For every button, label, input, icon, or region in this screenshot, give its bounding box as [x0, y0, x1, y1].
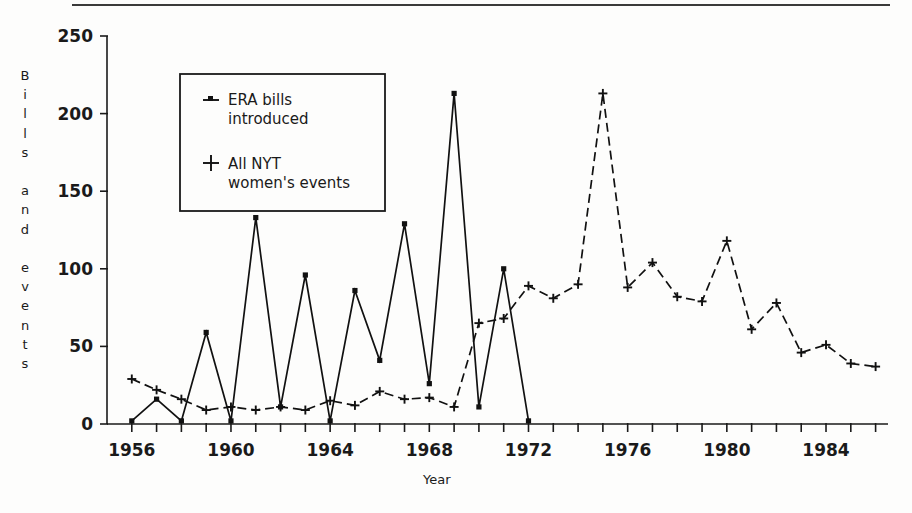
y-tick-labels: 050100150200250	[58, 26, 94, 434]
plot-area: 050100150200250 195619601964196819721976…	[0, 0, 912, 513]
era-line	[132, 93, 529, 421]
data-point-marker	[328, 418, 333, 423]
data-point-marker	[204, 330, 209, 335]
x-tick-label: 1976	[604, 440, 651, 460]
y-tick-label: 250	[58, 26, 94, 46]
series-era-bills-introduced	[129, 91, 531, 424]
data-point-marker	[253, 215, 258, 220]
y-tick-label: 100	[58, 259, 94, 279]
data-point-marker	[501, 266, 506, 271]
series-all-nyt-womens-events	[127, 89, 880, 415]
x-tick-label: 1964	[306, 440, 353, 460]
legend-marker-era-icon	[203, 96, 219, 101]
nyt-line	[132, 93, 876, 410]
nyt-markers	[127, 89, 880, 415]
data-point-marker	[303, 272, 308, 277]
legend-label-era-line1: ERA bills	[228, 91, 292, 109]
data-point-marker	[179, 418, 184, 423]
x-tick-label: 1956	[108, 440, 155, 460]
x-tick-label: 1960	[207, 440, 254, 460]
data-point-marker	[526, 418, 531, 423]
data-point-marker	[402, 221, 407, 226]
data-point-marker	[377, 358, 382, 363]
legend-label-nyt-line1: All NYT	[228, 155, 282, 173]
x-tick-labels: 19561960196419681972197619801984	[108, 440, 850, 460]
x-tick-label: 1968	[406, 440, 453, 460]
x-tick-label: 1980	[703, 440, 750, 460]
legend: ERA bills introduced All NYT women's eve…	[180, 74, 385, 211]
y-tick-label: 50	[69, 336, 93, 356]
data-point-marker	[154, 397, 159, 402]
data-point-marker	[476, 404, 481, 409]
x-axis-title: Year	[422, 472, 451, 487]
data-point-marker	[129, 418, 134, 423]
chart-figure: B i l l s a n d e v e n t s 050100150200…	[0, 0, 912, 513]
legend-marker-nyt-icon	[203, 155, 219, 171]
data-point-marker	[452, 91, 457, 96]
legend-label-era-line2: introduced	[228, 110, 309, 128]
era-markers	[129, 91, 531, 424]
y-tick-label: 200	[58, 104, 94, 124]
x-tick-label: 1972	[505, 440, 552, 460]
data-point-marker	[352, 288, 357, 293]
y-tick-label: 150	[58, 181, 94, 201]
data-point-marker	[228, 418, 233, 423]
data-point-marker	[427, 381, 432, 386]
legend-label-nyt-line2: women's events	[228, 174, 350, 192]
y-tick-label: 0	[81, 414, 93, 434]
x-tick-label: 1984	[802, 440, 849, 460]
